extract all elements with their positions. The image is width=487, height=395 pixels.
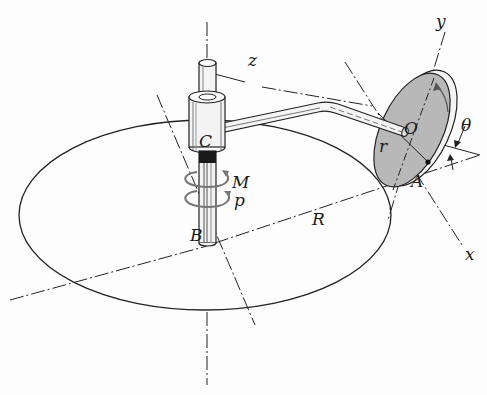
label-x: x <box>465 244 475 264</box>
label-z: z <box>247 50 258 70</box>
label-A: A <box>409 171 423 191</box>
diagram-canvas: z C M p B R O r A θ y x <box>0 0 487 395</box>
shaft-top-cap <box>199 60 216 67</box>
label-theta: θ <box>461 115 471 135</box>
label-O: O <box>404 118 418 138</box>
mechanics-diagram: z C M p B R O r A θ y x <box>0 0 487 395</box>
R-line <box>10 246 207 300</box>
label-M: M <box>231 172 250 192</box>
collar-hole <box>199 94 216 100</box>
shaft-lower-dark <box>199 151 216 163</box>
label-p: p <box>234 190 245 210</box>
theta-arrowhead-lower <box>447 154 454 161</box>
label-r: r <box>379 136 388 156</box>
label-B: B <box>189 225 203 245</box>
arm-centerline <box>222 108 320 128</box>
R-line-right <box>215 155 480 243</box>
theta-arrowhead-upper <box>454 140 461 148</box>
label-R: R <box>311 209 325 229</box>
label-C: C <box>199 131 212 151</box>
point-A <box>425 159 430 164</box>
label-y: y <box>435 11 446 31</box>
